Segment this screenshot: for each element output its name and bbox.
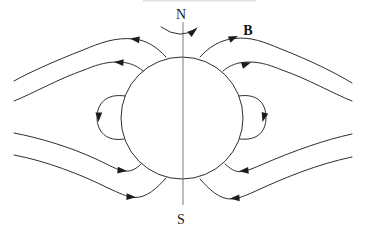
arrowhead-bottom-right-upper-icon — [239, 167, 249, 175]
field-line-bottom-left-upper — [14, 133, 141, 171]
arrowhead-bottom-left-lower-icon — [126, 193, 136, 200]
arrowhead-top-left-inner-icon — [114, 59, 124, 66]
field-line-top-left-inner — [14, 62, 143, 101]
arrowhead-loop-left-icon — [95, 112, 102, 122]
south-pole-label: S — [177, 212, 185, 227]
sphere — [121, 57, 243, 179]
rotation-arrowhead-icon — [187, 26, 199, 37]
arrowhead-loop-right-icon — [259, 112, 268, 123]
arrowhead-bottom-left-upper-icon — [117, 167, 127, 175]
north-pole-label: N — [176, 7, 186, 22]
arrowhead-bottom-right-lower-icon — [230, 195, 240, 202]
diagram-canvas: N S B — [0, 0, 367, 236]
magnetic-field-diagram: N S B — [0, 0, 367, 236]
magnetic-field-label: B — [243, 23, 252, 38]
arrowhead-top-right-inner-icon — [241, 59, 252, 68]
